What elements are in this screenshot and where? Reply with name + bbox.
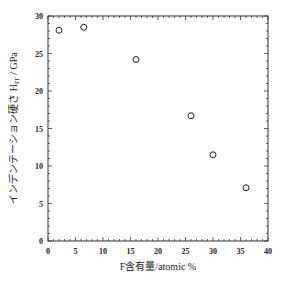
plot-frame bbox=[48, 16, 268, 241]
x-tick-labels: 0510152025303540 bbox=[46, 247, 272, 256]
svg-text:30: 30 bbox=[35, 12, 43, 21]
scatter-chart: 051015202530 0510152025303540 F含有量/atomi… bbox=[0, 0, 282, 283]
x-axis-title: F含有量/atomic % bbox=[120, 260, 196, 272]
svg-text:20: 20 bbox=[35, 87, 43, 96]
svg-text:0: 0 bbox=[46, 247, 50, 256]
svg-text:10: 10 bbox=[35, 162, 43, 171]
svg-text:インデンテーション硬さ HIT / GPa: インデンテーション硬さ HIT / GPa bbox=[7, 52, 21, 204]
data-point bbox=[81, 24, 87, 30]
svg-text:5: 5 bbox=[74, 247, 78, 256]
data-point bbox=[210, 152, 216, 158]
svg-text:15: 15 bbox=[35, 125, 43, 134]
data-points bbox=[56, 24, 249, 191]
svg-text:25: 25 bbox=[182, 247, 190, 256]
data-point bbox=[56, 27, 62, 33]
svg-text:30: 30 bbox=[209, 247, 217, 256]
data-point bbox=[188, 113, 194, 119]
svg-text:5: 5 bbox=[39, 200, 43, 209]
data-point bbox=[133, 57, 139, 63]
svg-text:25: 25 bbox=[35, 50, 43, 59]
y-tick-labels: 051015202530 bbox=[35, 12, 43, 246]
y-axis-title: インデンテーション硬さ HIT / GPa bbox=[7, 52, 21, 204]
svg-text:15: 15 bbox=[127, 247, 135, 256]
data-point bbox=[243, 185, 249, 191]
svg-text:35: 35 bbox=[237, 247, 245, 256]
svg-text:40: 40 bbox=[264, 247, 272, 256]
svg-text:10: 10 bbox=[99, 247, 107, 256]
svg-text:0: 0 bbox=[39, 237, 43, 246]
axis-ticks bbox=[48, 16, 268, 241]
svg-text:20: 20 bbox=[154, 247, 162, 256]
